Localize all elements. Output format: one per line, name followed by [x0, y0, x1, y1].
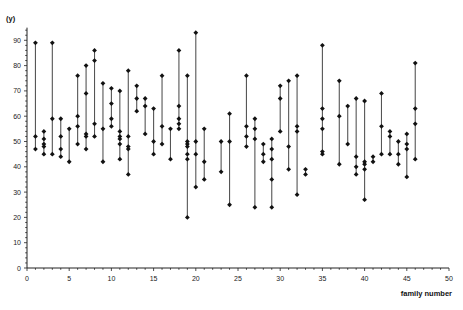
- data-point-marker: [41, 129, 46, 134]
- family-23: [219, 139, 224, 174]
- data-point-marker: [58, 134, 63, 139]
- data-point-marker: [109, 101, 114, 106]
- family-24: [227, 111, 232, 207]
- data-point-marker: [404, 132, 409, 137]
- data-point-marker: [295, 129, 300, 134]
- data-point-marker: [345, 104, 350, 109]
- y-tick-label: 50: [13, 138, 21, 145]
- y-axis-title: (y): [6, 14, 16, 23]
- data-point-marker: [126, 172, 131, 177]
- data-point-marker: [50, 116, 55, 121]
- data-point-marker: [371, 159, 376, 164]
- data-point-marker: [41, 137, 46, 142]
- data-point-marker: [286, 78, 291, 83]
- x-tick-label: 5: [67, 275, 71, 282]
- x-axis: 05101520253035404550: [25, 268, 453, 282]
- data-point-marker: [160, 142, 165, 147]
- family-44: [396, 139, 401, 167]
- family-range-chart: 0102030405060708090 05101520253035404550…: [0, 0, 463, 310]
- y-tick-label: 80: [13, 62, 21, 69]
- data-point-marker: [278, 83, 283, 88]
- family-30: [278, 83, 283, 133]
- data-point-marker: [219, 169, 224, 174]
- family-17: [168, 126, 173, 161]
- family-13: [134, 83, 139, 113]
- data-point-marker: [261, 159, 266, 164]
- family-8: [92, 48, 97, 139]
- data-point-marker: [295, 192, 300, 197]
- data-point-marker: [252, 126, 257, 131]
- data-point-marker: [269, 177, 274, 182]
- data-point-marker: [244, 144, 249, 149]
- data-point-marker: [413, 106, 418, 111]
- data-point-marker: [337, 78, 342, 83]
- data-point-marker: [84, 147, 89, 152]
- family-31: [286, 78, 291, 171]
- family-27: [252, 116, 257, 209]
- y-tick-label: 60: [13, 113, 21, 120]
- x-tick-label: 0: [25, 275, 29, 282]
- data-point-marker: [345, 142, 350, 147]
- data-point-marker: [185, 144, 190, 149]
- family-19: [185, 73, 190, 219]
- data-point-marker: [227, 202, 232, 207]
- data-point-marker: [286, 144, 291, 149]
- data-point-marker: [41, 144, 46, 149]
- data-point-marker: [320, 126, 325, 131]
- family-20: [193, 30, 198, 189]
- data-point-marker: [219, 139, 224, 144]
- data-point-marker: [50, 40, 55, 45]
- data-point-marker: [151, 139, 156, 144]
- family-26: [244, 73, 249, 149]
- x-tick-label: 20: [192, 275, 200, 282]
- data-point-marker: [404, 142, 409, 147]
- data-point-marker: [151, 106, 156, 111]
- data-point-marker: [160, 73, 165, 78]
- data-point-marker: [84, 63, 89, 68]
- data-point-marker: [244, 134, 249, 139]
- data-point-marker: [269, 137, 274, 142]
- y-axis: 0102030405060708090: [13, 28, 27, 272]
- family-4: [58, 116, 63, 159]
- family-1: [33, 40, 38, 151]
- data-point-marker: [379, 124, 384, 129]
- data-point-marker: [185, 157, 190, 162]
- data-point-marker: [193, 30, 198, 35]
- family-7: [84, 63, 89, 151]
- family-3: [50, 40, 55, 156]
- data-point-marker: [177, 116, 182, 121]
- data-point-marker: [303, 172, 308, 177]
- data-point-marker: [109, 86, 114, 91]
- x-tick-label: 45: [403, 275, 411, 282]
- y-tick-label: 30: [13, 189, 21, 196]
- family-40: [362, 99, 367, 202]
- data-point-marker: [84, 91, 89, 96]
- data-point-marker: [278, 129, 283, 134]
- data-point-marker: [109, 124, 114, 129]
- data-point-marker: [58, 116, 63, 121]
- data-point-marker: [379, 91, 384, 96]
- data-point-marker: [134, 109, 139, 114]
- y-tick-label: 10: [13, 239, 21, 246]
- data-point-marker: [117, 89, 122, 94]
- data-point-marker: [320, 116, 325, 121]
- family-46: [413, 61, 418, 162]
- family-12: [126, 68, 131, 177]
- data-point-marker: [354, 154, 359, 159]
- family-15: [151, 106, 156, 156]
- data-point-marker: [193, 185, 198, 190]
- data-point-marker: [303, 167, 308, 172]
- data-point-marker: [92, 121, 97, 126]
- family-5: [67, 126, 72, 164]
- family-14: [143, 96, 148, 136]
- data-point-marker: [33, 134, 38, 139]
- data-point-marker: [320, 152, 325, 157]
- data-point-marker: [177, 126, 182, 131]
- x-tick-label: 50: [445, 275, 453, 282]
- data-point-marker: [41, 152, 46, 157]
- x-tick-label: 25: [234, 275, 242, 282]
- data-point-marker: [126, 147, 131, 152]
- data-point-marker: [320, 43, 325, 48]
- data-point-marker: [227, 139, 232, 144]
- data-point-marker: [143, 96, 148, 101]
